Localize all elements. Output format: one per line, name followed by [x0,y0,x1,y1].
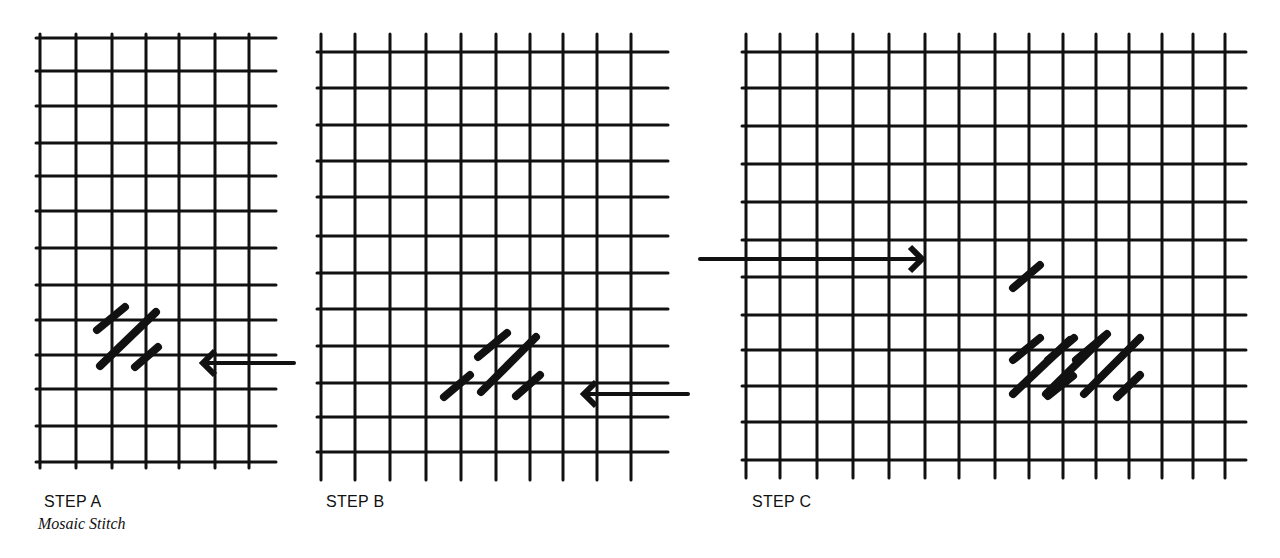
step-a-label: STEP A [44,493,102,511]
mosaic-stitch-diagram [0,0,1280,558]
step-c-panel [700,34,1246,478]
step-b-label: STEP B [326,493,384,511]
stitch [444,375,470,397]
stitch [516,375,540,396]
step-c-label: STEP C [752,493,811,511]
stitch [1076,334,1107,360]
step-b-panel [317,34,688,480]
step-a-panel [36,34,294,468]
figure-caption: Mosaic Stitch [38,515,126,533]
